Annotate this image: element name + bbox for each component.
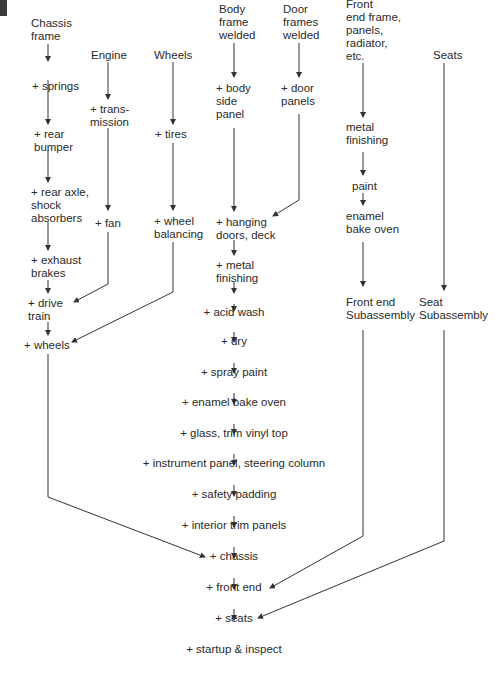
main-spray-paint: + spray paint xyxy=(134,366,334,379)
wheels-label: Wheels xyxy=(154,49,192,62)
main-instrument-panel: + instrument panel, steering column xyxy=(134,457,334,470)
main-startup-inspect: + startup & inspect xyxy=(134,643,334,656)
step-transmission: + trans- mission xyxy=(90,103,129,129)
step-rear-bumper: + rear bumper xyxy=(34,128,73,154)
step-wheels: + wheels xyxy=(24,339,70,352)
step-rear-axle: + rear axle, shock absorbers xyxy=(31,186,89,225)
seats-label: Seats xyxy=(433,49,462,62)
step-drive-train: + drive train xyxy=(28,297,63,323)
step-door-panels: + door panels xyxy=(281,82,315,108)
main-metal-finishing: + metal finishing xyxy=(216,259,258,285)
main-chassis: + chassis xyxy=(134,550,334,563)
front-end-frame-label: Front end frame, panels, radiator, etc. xyxy=(346,0,401,63)
front-end-subassembly: Front end Subassembly xyxy=(346,296,415,322)
step-enamel-bake-oven-fe: enamel bake oven xyxy=(346,210,399,236)
door-frames-label: Door frames welded xyxy=(283,3,319,42)
engine-label: Engine xyxy=(91,49,127,62)
main-front-end: + front end xyxy=(134,581,334,594)
main-dry: + dry xyxy=(134,335,334,348)
step-springs: + springs xyxy=(32,80,79,93)
step-exhaust-brakes: + exhaust brakes xyxy=(31,254,81,280)
step-metal-finishing-fe: metal finishing xyxy=(346,121,388,147)
step-paint: paint xyxy=(352,180,377,193)
main-acid-wash: + acid wash xyxy=(134,306,334,319)
main-hanging-doors: + hanging doors, deck xyxy=(216,216,275,242)
step-fan: + fan xyxy=(95,217,121,230)
chassis-frame-label: Chassis frame xyxy=(31,17,72,43)
main-safety-padding: + safety padding xyxy=(134,488,334,501)
main-enamel-bake-oven: + enamel bake oven xyxy=(134,396,334,409)
step-body-side-panel: + body side panel xyxy=(216,82,251,121)
seat-subassembly: Seat Subassembly xyxy=(419,296,488,322)
step-tires: + tires xyxy=(155,128,187,141)
main-seats: + seats xyxy=(134,612,334,625)
main-glass-trim: + glass, trim vinyl top xyxy=(134,427,334,440)
body-frame-label: Body frame welded xyxy=(219,3,255,42)
step-wheel-balancing: + wheel balancing xyxy=(154,215,203,241)
main-interior-trim: + interior trim panels xyxy=(134,519,334,532)
